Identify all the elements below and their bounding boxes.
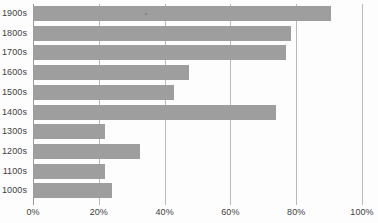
bar-1300s [33,124,105,139]
bar-1600s [33,65,189,80]
bar-row [33,103,362,123]
y-axis-tick-label: 1900s [2,4,27,24]
bar-row [33,181,362,201]
bar-1000s [33,183,112,198]
y-axis-tick-label: 1600s [2,63,27,83]
bar-row [33,142,362,162]
y-axis-tick-label: 1500s [2,83,27,103]
x-axis-tick-label: 20% [90,207,108,217]
y-axis-labels: 1900s1800s1700s1600s1500s1400s1300s1200s… [0,4,30,201]
bar-row [33,83,362,103]
bar-row [33,24,362,44]
y-axis-tick-label: 1200s [2,142,27,162]
bar-1500s [33,85,174,100]
y-axis-tick-label: 1700s [2,43,27,63]
bar-row [33,162,362,182]
y-axis-tick-label: 1100s [3,162,27,182]
chart-bars [33,4,362,201]
y-axis-tick-label: 1800s [2,24,27,44]
bar-1800s [33,26,291,41]
gridline-100 [362,4,363,205]
bar-chart: 1900s1800s1700s1600s1500s1400s1300s1200s… [0,0,378,223]
x-axis-tick-label: 60% [221,207,239,217]
bar-1400s [33,105,276,120]
y-axis-tick-label: 1400s [2,103,27,123]
bar-1900s [33,6,331,21]
x-axis-tick-label: 0% [26,207,39,217]
bar-1100s [33,164,105,179]
y-axis-tick-label: 1000s [2,181,27,201]
y-axis-tick-label: 1300s [2,122,27,142]
bar-1200s [33,144,140,159]
x-axis-tick-label: 100% [350,207,373,217]
bar-row [33,122,362,142]
bar-row [33,43,362,63]
scan-speck [145,13,147,15]
bar-row [33,4,362,24]
bar-row [33,63,362,83]
x-axis-tick-label: 80% [287,207,305,217]
x-axis-labels: 0%20%40%60%80%100% [0,207,378,223]
bar-1700s [33,45,286,60]
x-axis-tick-label: 40% [155,207,173,217]
